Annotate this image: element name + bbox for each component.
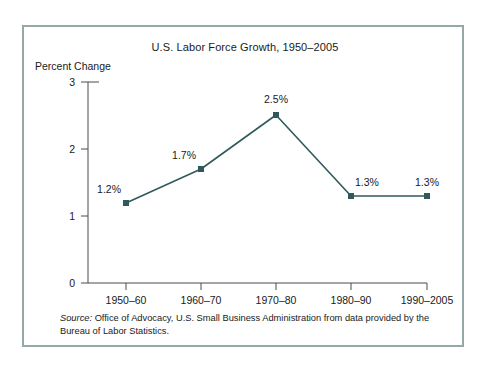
y-tick-marks xyxy=(81,82,88,283)
data-point-marker-3 xyxy=(348,193,354,199)
x-tick-label-1: 1960–70 xyxy=(181,294,222,306)
x-tick-marks xyxy=(126,283,427,290)
data-point-label-1: 1.7% xyxy=(172,149,196,161)
plot-area: 0 1 2 3 1950–60 1960–70 1970–80 1980–90 … xyxy=(24,27,466,349)
data-point-label-4: 1.3% xyxy=(415,176,439,188)
data-point-label-2: 2.5% xyxy=(264,93,288,105)
x-tick-label-4: 1990–2005 xyxy=(401,294,454,306)
data-point-markers xyxy=(123,112,430,206)
data-point-marker-2 xyxy=(273,112,279,118)
y-tick-label-3: 3 xyxy=(69,76,75,88)
figure-frame: U.S. Labor Force Growth, 1950–2005 Perce… xyxy=(22,25,464,347)
data-point-label-3: 1.3% xyxy=(355,176,379,188)
source-label: Source: xyxy=(60,313,92,323)
y-tick-label-1: 1 xyxy=(69,210,75,222)
data-point-label-0: 1.2% xyxy=(97,183,121,195)
x-tick-label-2: 1970–80 xyxy=(256,294,297,306)
x-tick-label-3: 1980–90 xyxy=(331,294,372,306)
data-point-marker-0 xyxy=(123,200,129,206)
y-tick-label-0: 0 xyxy=(69,277,75,289)
x-tick-label-0: 1950–60 xyxy=(106,294,147,306)
y-tick-label-2: 2 xyxy=(69,143,75,155)
source-text: Office of Advocacy, U.S. Small Business … xyxy=(60,313,429,336)
data-point-marker-4 xyxy=(424,193,430,199)
data-point-marker-1 xyxy=(198,166,204,172)
source-note: Source: Office of Advocacy, U.S. Small B… xyxy=(60,312,448,339)
